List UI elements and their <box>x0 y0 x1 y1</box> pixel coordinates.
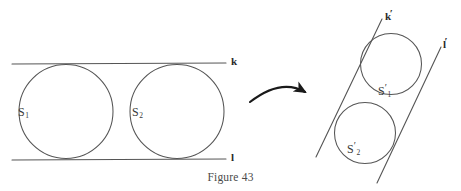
figure-43-container: k l S1 S2 k′ l′ S′1 S′2 Figure 43 <box>0 0 461 191</box>
label-circle-s1-prime: S′1 <box>378 85 391 97</box>
circle-s1-prime <box>361 34 422 95</box>
prime-mark-k: ′ <box>390 7 393 19</box>
label-line-l: l <box>231 152 234 163</box>
label-circle-s2-subscript: 2 <box>139 111 143 120</box>
circle-s2-prime <box>335 103 396 164</box>
transformation-arrow <box>250 87 305 102</box>
circle-s2 <box>130 65 224 159</box>
prime-mark-l: ′ <box>445 35 448 47</box>
label-line-k-prime: k′ <box>385 11 394 22</box>
label-circle-s1-prime-subscript: 1 <box>387 90 391 99</box>
line-l <box>12 159 226 160</box>
line-l-prime <box>377 47 441 183</box>
label-circle-s2-prime-subscript: 2 <box>356 148 360 157</box>
line-k <box>12 63 226 64</box>
label-line-l-prime: l′ <box>443 39 449 50</box>
label-circle-s2-prime: S′2 <box>347 143 360 155</box>
label-circle-s1-subscript: 1 <box>25 111 29 120</box>
left-panel-group <box>12 63 226 160</box>
label-circle-s1: S1 <box>18 106 28 118</box>
figure-caption: Figure 43 <box>0 171 461 183</box>
label-circle-s2: S2 <box>132 106 142 118</box>
right-panel-group <box>316 19 441 183</box>
transformation-arrow-group <box>250 87 305 102</box>
label-line-k: k <box>231 56 237 67</box>
circle-s1 <box>19 65 113 159</box>
